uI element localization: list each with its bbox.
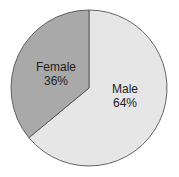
male-percent: 64% xyxy=(113,96,137,110)
pie-chart: Female 36% Male 64% xyxy=(0,0,179,177)
female-label: Female xyxy=(36,60,76,74)
male-label: Male xyxy=(112,82,138,96)
female-percent: 36% xyxy=(44,74,68,88)
